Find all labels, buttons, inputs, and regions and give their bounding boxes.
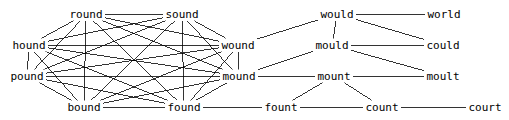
edges-group <box>27 14 466 107</box>
graph-node-mound[interactable]: mound <box>220 70 257 83</box>
graph-edge <box>238 52 239 70</box>
graph-node-sound[interactable]: sound <box>163 8 200 21</box>
graph-edge <box>39 83 72 101</box>
graph-edge <box>344 83 372 101</box>
graph-edge <box>27 52 28 70</box>
graph-edge <box>351 50 424 70</box>
graph-edge <box>182 21 184 101</box>
graph-node-fount[interactable]: fount <box>262 101 299 114</box>
graph-node-world[interactable]: world <box>425 8 462 21</box>
graph-edge <box>41 21 74 39</box>
graph-edge <box>333 21 336 39</box>
graph-node-hound[interactable]: hound <box>10 39 47 52</box>
graph-edge <box>356 20 424 40</box>
graph-edge <box>84 21 86 101</box>
graph-node-wound[interactable]: wound <box>219 39 256 52</box>
graph-node-could[interactable]: could <box>424 39 461 52</box>
graph-node-mould[interactable]: mould <box>313 39 350 52</box>
graph-node-mount[interactable]: mount <box>315 70 352 83</box>
graph-node-found[interactable]: found <box>165 101 202 114</box>
graph-node-would[interactable]: would <box>318 8 355 21</box>
graph-node-court[interactable]: court <box>466 101 503 114</box>
graph-edge <box>258 51 313 69</box>
graph-edge <box>46 80 165 104</box>
graph-node-bound[interactable]: bound <box>65 101 102 114</box>
graph-edge <box>292 83 323 101</box>
graph-node-moult[interactable]: moult <box>424 70 461 83</box>
word-network-diagram: roundsoundhoundwoundpoundmoundboundfound… <box>0 0 509 120</box>
graph-node-count[interactable]: count <box>363 101 400 114</box>
graph-node-round[interactable]: round <box>67 8 104 21</box>
graph-edge <box>194 21 227 39</box>
graph-edge <box>196 83 228 101</box>
graph-node-pound[interactable]: pound <box>8 70 45 83</box>
graph-edge <box>48 18 163 41</box>
graph-edge <box>257 20 318 39</box>
